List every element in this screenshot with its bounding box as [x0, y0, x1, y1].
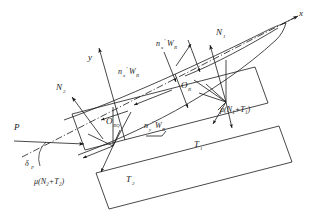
- origin-label-ORQ-subscript: RQ: [112, 123, 120, 128]
- angle-label-glyph: δ: [25, 159, 29, 168]
- force-label-N1-glyph: N: [215, 27, 223, 37]
- force-label-N2-subscript: 2: [63, 89, 66, 94]
- y-axis: [99, 48, 125, 140]
- force-label-N1: N 1: [215, 27, 226, 39]
- force-label-nxWR-a-sub: x: [122, 73, 126, 78]
- force-label-nyWR-Wsub: R: [161, 127, 165, 132]
- ship-hull: [64, 23, 286, 155]
- axis-label-x: x: [298, 8, 303, 18]
- origin-label-ORQ-glyph: O: [106, 116, 113, 126]
- force-label-N2: N 2: [55, 82, 66, 94]
- force-label-N1-subscript: 1: [223, 34, 226, 39]
- force-label-nxWR-b: n x ′ W R: [156, 38, 177, 50]
- force-label-nxWR-b-prime: ′: [164, 38, 166, 44]
- friction-label-mu2: μ(N₂+T₂): [33, 177, 64, 186]
- angle-label-subscript: P: [30, 165, 34, 170]
- traction-arrows-ny: [164, 40, 200, 108]
- force-diagram-svg: x y P δ P N 1 N 2 T 1 T 2 n x ′ W R n x …: [0, 0, 312, 214]
- force-label-T1: T 1: [194, 139, 203, 151]
- force-label-N2-glyph: N: [55, 82, 63, 92]
- force-arrow-N1: [210, 45, 226, 102]
- force-label-nxWR-a: n x ′ W R: [118, 66, 139, 78]
- force-label-nyWR-sub: y: [148, 127, 152, 132]
- force-label-nxWR-b-sub: x: [160, 45, 164, 50]
- friction-label-mu1: μ(N₁+T₁): [219, 105, 250, 114]
- force-label-T2-subscript: 2: [132, 181, 135, 186]
- force-label-T2: T 2: [126, 174, 135, 186]
- force-label-nxWR-a-prime: ′: [126, 66, 128, 72]
- origin-label-OR-glyph: O: [181, 80, 188, 90]
- origin-label-OR-subscript: R: [187, 87, 191, 92]
- traction-arrow-nx-upper: [176, 44, 191, 66]
- force-label-nyWR-prime: ′: [152, 120, 154, 126]
- force-label-nyWR-n: n: [144, 121, 148, 130]
- force-label-T1-subscript: 1: [200, 146, 203, 151]
- force-label-nyWR: n y ′ W R: [144, 120, 165, 132]
- origin-label-OR: O R: [181, 80, 191, 92]
- force-label-nxWR-b-n: n: [156, 39, 160, 48]
- force-label-nxWR-a-Wsub: R: [135, 73, 139, 78]
- force-label-P: P: [13, 122, 20, 132]
- axis-label-y: y: [87, 52, 92, 62]
- angle-label-delta-p: δ P: [25, 159, 34, 170]
- force-label-nxWR-a-n: n: [118, 67, 122, 76]
- force-label-nxWR-b-Wsub: R: [173, 45, 177, 50]
- figure-canvas: x y P δ P N 1 N 2 T 1 T 2 n x ′ W R n x …: [0, 0, 312, 214]
